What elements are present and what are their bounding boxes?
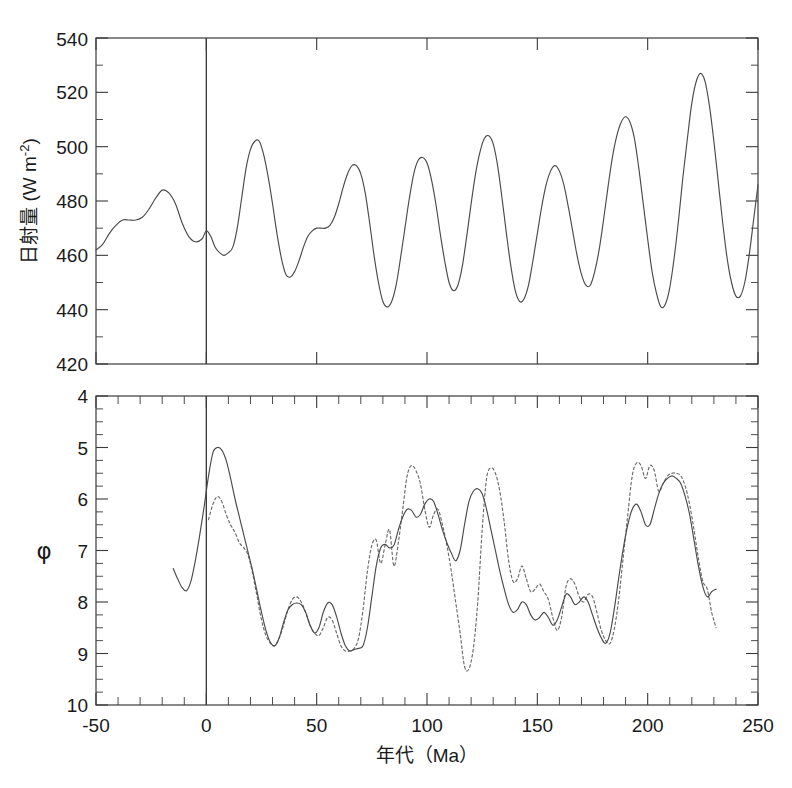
x-ticklabels: -50 0 50 100 150 200 250 <box>82 715 774 736</box>
top-panel-y-ticklabels: 420 440 460 480 500 520 540 <box>56 29 88 375</box>
top-ytick-500: 500 <box>56 137 88 158</box>
top-panel-y-axis-title: 日射量 (W m-2) <box>17 138 40 264</box>
top-panel <box>96 38 758 364</box>
xtick-200: 200 <box>632 715 664 736</box>
bottom-panel <box>96 396 758 705</box>
y-axis-title-tail: ) <box>19 138 40 144</box>
bottom-panel-frame <box>96 396 758 705</box>
top-ytick-480: 480 <box>56 191 88 212</box>
xtick-250: 250 <box>742 715 774 736</box>
figure-canvas: 420 440 460 480 500 520 540 日射量 (W m-2) <box>0 0 792 788</box>
y-axis-title-exponent: -2 <box>17 145 32 157</box>
chart-svg: 420 440 460 480 500 520 540 日射量 (W m-2) <box>0 0 792 788</box>
top-ytick-420: 420 <box>56 354 88 375</box>
bottom-ytick-9: 9 <box>77 644 88 665</box>
xtick-0: 0 <box>201 715 212 736</box>
caption-strip <box>0 766 792 788</box>
bottom-ytick-6: 6 <box>77 489 88 510</box>
top-ytick-540: 540 <box>56 29 88 50</box>
svg-text:日射量 (W m-2): 日射量 (W m-2) <box>17 138 40 264</box>
bottom-ytick-10: 10 <box>67 695 88 716</box>
bottom-ytick-4: 4 <box>77 386 88 407</box>
top-ytick-440: 440 <box>56 300 88 321</box>
xtick-neg50: -50 <box>82 715 109 736</box>
xtick-50: 50 <box>306 715 327 736</box>
bottom-ytick-8: 8 <box>77 592 88 613</box>
xtick-100: 100 <box>411 715 443 736</box>
top-ytick-520: 520 <box>56 82 88 103</box>
top-ytick-460: 460 <box>56 245 88 266</box>
bottom-panel-y-ticklabels: 4 5 6 7 8 9 10 <box>67 386 89 716</box>
xtick-150: 150 <box>521 715 553 736</box>
bottom-panel-y-axis-title: φ <box>36 538 51 564</box>
top-panel-frame <box>96 38 758 364</box>
bottom-ytick-7: 7 <box>77 541 88 562</box>
bottom-ytick-5: 5 <box>77 438 88 459</box>
y-axis-title-main: 日射量 (W m <box>19 156 40 264</box>
x-axis-title: 年代（Ma） <box>376 745 478 766</box>
